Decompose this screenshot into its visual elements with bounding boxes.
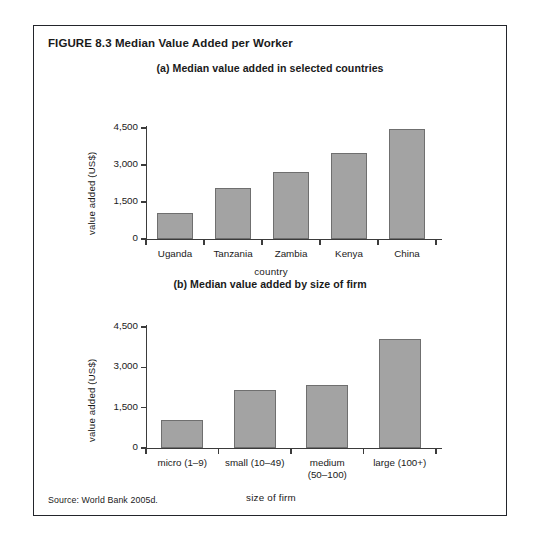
chart-b-y-axis-label: value added (US$) <box>86 332 97 442</box>
bar <box>379 339 421 448</box>
chart-a-y-axis-label: value added (US$) <box>86 130 97 235</box>
x-tick-mark <box>319 240 320 245</box>
y-tick-mark <box>141 407 146 408</box>
bar <box>161 420 203 448</box>
x-tick-mark <box>377 240 378 245</box>
x-tick-mark <box>435 240 436 245</box>
chart-x-axis-line <box>146 239 442 240</box>
figure-title: FIGURE 8.3 Median Value Added per Worker <box>48 37 293 49</box>
panel-a-title: (a) Median value added in selected count… <box>34 62 506 74</box>
panel-b-title: (b) Median value added by size of firm <box>34 278 506 290</box>
chart-panel-a: value added (US$) country 01,5003,0004,5… <box>34 88 508 263</box>
bar <box>273 172 309 239</box>
chart-x-axis-line <box>146 448 442 449</box>
y-tick-mark <box>141 367 146 368</box>
y-tick-label: 1,500 <box>94 401 138 412</box>
x-tick-mark <box>145 240 146 245</box>
x-tick-mark <box>290 449 291 454</box>
bar <box>331 153 367 239</box>
chart-panel-b: value added (US$) size of firm 01,5003,0… <box>34 304 508 496</box>
x-tick-mark <box>363 449 364 454</box>
y-tick-label: 4,500 <box>94 121 138 132</box>
x-tick-mark <box>203 240 204 245</box>
x-category-label: China <box>372 248 442 260</box>
x-tick-mark <box>435 449 436 454</box>
source-note: Source: World Bank 2005d. <box>48 495 158 505</box>
y-tick-label: 0 <box>94 232 138 243</box>
y-tick-mark <box>141 164 146 165</box>
chart-y-axis-line <box>146 126 147 239</box>
bar <box>215 188 251 239</box>
y-tick-label: 4,500 <box>94 320 138 331</box>
bar <box>306 385 348 448</box>
y-tick-label: 0 <box>94 441 138 452</box>
bar <box>234 390 276 448</box>
bar <box>389 129 425 239</box>
x-tick-mark <box>218 449 219 454</box>
y-tick-mark <box>141 326 146 327</box>
chart-y-axis-line <box>146 325 147 448</box>
x-tick-mark <box>261 240 262 245</box>
figure-frame: FIGURE 8.3 Median Value Added per Worker… <box>33 25 507 516</box>
y-tick-label: 3,000 <box>94 158 138 169</box>
y-tick-label: 1,500 <box>94 195 138 206</box>
bar <box>157 213 193 239</box>
y-tick-mark <box>141 201 146 202</box>
y-tick-label: 3,000 <box>94 360 138 371</box>
x-tick-mark <box>145 449 146 454</box>
x-category-label: large (100+) <box>358 457 443 469</box>
chart-a-x-axis-label: country <box>34 266 508 277</box>
y-tick-mark <box>141 127 146 128</box>
